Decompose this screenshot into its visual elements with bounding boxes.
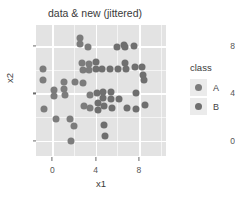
data-point — [52, 116, 59, 123]
legend-item-label: A — [213, 83, 219, 93]
chart-title: data & new (jittered) — [0, 7, 190, 19]
data-point — [66, 116, 73, 123]
data-point — [62, 91, 69, 98]
data-point — [108, 104, 115, 111]
data-point — [101, 122, 108, 129]
y-tick-mark — [33, 46, 36, 47]
legend-item[interactable]: A — [190, 78, 235, 97]
data-point — [61, 78, 68, 85]
data-point — [115, 65, 122, 72]
data-point — [99, 65, 106, 72]
legend-item[interactable]: B — [190, 97, 235, 116]
data-point — [107, 96, 114, 103]
gridline-vertical — [74, 25, 75, 156]
data-point — [107, 89, 114, 96]
data-point — [102, 132, 109, 139]
data-point — [121, 44, 128, 51]
gridline-horizontal — [36, 141, 166, 143]
x-tick-mark — [52, 157, 53, 161]
gridline-vertical — [139, 25, 141, 156]
data-point — [87, 104, 94, 111]
data-point — [100, 95, 107, 102]
data-point — [72, 78, 79, 85]
data-point — [85, 44, 92, 51]
legend-point-icon — [195, 84, 202, 91]
scatter-plot-figure: data & new (jittered) 048048 x1 x2 class… — [0, 0, 235, 200]
data-point — [130, 43, 137, 50]
x-tick-label: 8 — [127, 165, 151, 175]
data-point — [70, 123, 77, 130]
legend-key — [190, 79, 207, 96]
data-point — [124, 104, 131, 111]
data-point — [101, 103, 108, 110]
data-point — [116, 96, 123, 103]
y-axis-label: x2 — [4, 73, 15, 83]
data-point — [79, 79, 86, 86]
y-tick-label: 0 — [209, 136, 235, 146]
legend-key — [190, 98, 207, 115]
data-point — [132, 90, 139, 97]
data-point — [77, 40, 84, 47]
gridline-vertical — [161, 25, 162, 156]
data-point — [67, 137, 74, 144]
legend: class AB — [190, 62, 235, 116]
data-point — [131, 64, 138, 71]
legend-items: AB — [190, 78, 235, 116]
data-point — [78, 59, 85, 66]
data-point — [92, 58, 99, 65]
y-tick-mark — [33, 93, 36, 94]
gridline-horizontal — [36, 46, 166, 48]
data-point — [142, 102, 149, 109]
data-point — [141, 77, 148, 84]
x-tick-mark — [138, 157, 139, 161]
data-point — [51, 92, 58, 99]
x-tick-label: 0 — [40, 165, 64, 175]
data-point — [39, 65, 46, 72]
data-point — [132, 105, 139, 112]
data-point — [139, 64, 146, 71]
legend-point-icon — [195, 103, 202, 110]
data-point — [40, 105, 47, 112]
x-tick-mark — [95, 157, 96, 161]
legend-item-label: B — [213, 102, 219, 112]
data-point — [122, 65, 129, 72]
legend-title: class — [190, 62, 235, 73]
x-axis-label: x1 — [36, 178, 166, 189]
x-tick-label: 4 — [84, 165, 108, 175]
y-tick-mark — [33, 140, 36, 141]
data-point — [39, 77, 46, 84]
y-tick-label: 8 — [209, 41, 235, 51]
plot-panel — [36, 25, 166, 156]
data-point — [106, 65, 113, 72]
